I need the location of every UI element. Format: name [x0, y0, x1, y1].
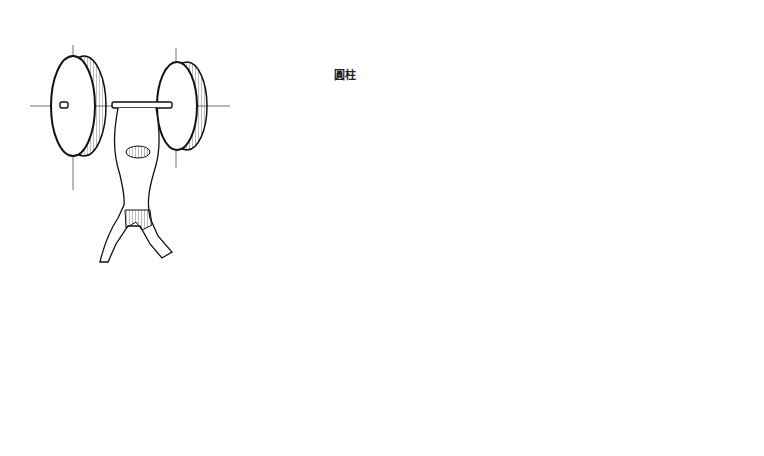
weightlifter-barbell — [30, 45, 230, 262]
cylinder-label: 圓柱 — [334, 66, 356, 82]
illustration-canvas: 圓柱 — [0, 0, 764, 456]
drawing — [0, 0, 764, 456]
